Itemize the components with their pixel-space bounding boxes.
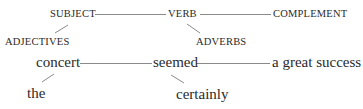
verb-word: seemed bbox=[153, 55, 198, 70]
subject-label: SUBJECT bbox=[50, 9, 96, 20]
subject-modifier-word: the bbox=[27, 86, 45, 101]
the-slash-line bbox=[42, 74, 54, 82]
adverbs-backslash-line bbox=[187, 24, 200, 33]
verb-modifier-word: certainly bbox=[176, 87, 228, 102]
complement-label: COMPLEMENT bbox=[273, 9, 347, 20]
adverbs-label: ADVERBS bbox=[196, 37, 246, 48]
certainly-backslash-line bbox=[171, 75, 184, 83]
subject-word: concert bbox=[36, 55, 80, 70]
complement-word: a great success bbox=[272, 55, 361, 70]
adjectives-label: ADJECTIVES bbox=[5, 37, 69, 48]
adjectives-slash-line bbox=[55, 25, 68, 33]
verb-label: VERB bbox=[168, 9, 197, 20]
